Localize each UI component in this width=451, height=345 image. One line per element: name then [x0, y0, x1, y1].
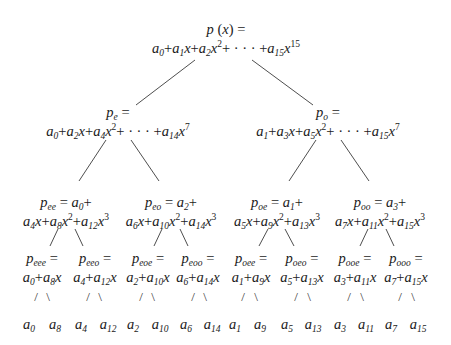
leaf-a8: a8 — [49, 316, 61, 333]
leaf-a5: a5 — [281, 316, 293, 333]
leaf-a14: a14 — [204, 316, 221, 333]
leaf-a2: a2 — [127, 316, 139, 333]
node-p-ooe-formula: a3+a11x — [334, 268, 377, 287]
leaf-edge: / — [347, 289, 351, 305]
edge-pee-peee — [50, 229, 58, 246]
node-p-oe-label: poe = a1+ — [234, 193, 320, 212]
leaf-edge: / — [139, 289, 143, 305]
edge-peo-peoe — [154, 229, 162, 246]
root-formula: a0+a1x+a2x2+ · · · +a15x15 — [152, 39, 300, 58]
leaf-a4: a4 — [75, 316, 87, 333]
node-p-eoe: peoe = a2+a10x — [126, 249, 169, 287]
node-p-eo-formula: a6x+a10x2+a14x3 — [126, 212, 217, 231]
node-p-eo: peo = a2+ a6x+a10x2+a14x3 — [126, 193, 217, 231]
edge-poo-pooe — [360, 229, 368, 246]
node-p-ee-label: pee = a0+ — [23, 193, 109, 212]
leaf-a6: a6 — [180, 316, 192, 333]
leaf-a3: a3 — [334, 316, 346, 333]
node-p-eeo-formula: a4+a12x — [73, 268, 116, 287]
leaf-a11: a11 — [358, 316, 374, 333]
leaf-edge: \ — [254, 289, 258, 305]
leaf-edge: / — [241, 289, 245, 305]
node-p-ooo-label: pooo = — [384, 249, 427, 268]
edge-root-pe — [136, 60, 195, 105]
node-p-oee-label: poee = — [232, 249, 271, 268]
root-node-p-x: p (x) = a0+a1x+a2x2+ · · · +a15x15 — [152, 20, 300, 58]
edge-root-po — [252, 60, 313, 105]
node-p-oeo-label: poeo = — [280, 249, 323, 268]
node-p-oe: poe = a1+ a5x+a9x2+a13x3 — [234, 193, 320, 231]
node-p-eoe-formula: a2+a10x — [126, 268, 169, 287]
node-p-ooe-label: pooe = — [334, 249, 377, 268]
node-p-eee-formula: a0+a8x — [23, 268, 62, 287]
leaf-edge: \ — [98, 289, 102, 305]
node-p-e: pe = a0+a2x+a4x2+ · · · +a14x7 — [46, 103, 189, 141]
node-p-oee-formula: a1+a9x — [232, 268, 271, 287]
node-p-ooo-formula: a7+a15x — [384, 268, 427, 287]
leaf-a15: a15 — [410, 316, 427, 333]
leaf-edge: \ — [307, 289, 311, 305]
leaf-a10: a10 — [152, 316, 169, 333]
node-p-o-label: po = — [256, 103, 399, 122]
node-p-eeo-label: peeo = — [73, 249, 116, 268]
node-p-eee: peee = a0+a8x — [23, 249, 62, 287]
leaf-edge: \ — [411, 289, 415, 305]
edge-pee-peeo — [75, 229, 83, 246]
node-p-oe-formula: a5x+a9x2+a13x3 — [234, 212, 320, 231]
root-label: p (x) = — [152, 20, 300, 39]
node-p-ee-formula: a4x+a8x2+a12x3 — [23, 212, 109, 231]
node-p-oeo: poeo = a5+a13x — [280, 249, 323, 287]
leaf-edge: \ — [203, 289, 207, 305]
node-p-e-formula: a0+a2x+a4x2+ · · · +a14x7 — [46, 122, 189, 141]
node-p-eo-label: peo = a2+ — [126, 193, 217, 212]
leaf-a0: a0 — [23, 316, 35, 333]
node-p-eoe-label: peoe = — [126, 249, 169, 268]
node-p-oeo-formula: a5+a13x — [280, 268, 323, 287]
leaf-a7: a7 — [385, 316, 397, 333]
edge-poe-poee — [259, 229, 268, 246]
node-p-o: po = a1+a3x+a5x2+ · · · +a15x7 — [256, 103, 399, 141]
node-p-eoo: peoo = a6+a14x — [176, 249, 219, 287]
leaf-edge: / — [398, 289, 402, 305]
leaf-edge: \ — [46, 289, 50, 305]
node-p-o-formula: a1+a3x+a5x2+ · · · +a15x7 — [256, 122, 399, 141]
leaf-edge: \ — [360, 289, 364, 305]
edge-poe-poeo — [285, 229, 294, 246]
edge-pe-peo — [131, 140, 159, 181]
node-p-eeo: peeo = a4+a12x — [73, 249, 116, 287]
node-p-eoo-label: peoo = — [176, 249, 219, 268]
node-p-ooe: pooe = a3+a11x — [334, 249, 377, 287]
leaf-a9: a9 — [254, 316, 266, 333]
edge-po-poo — [341, 140, 369, 181]
node-p-ooo: pooo = a7+a15x — [384, 249, 427, 287]
node-p-eee-label: peee = — [23, 249, 62, 268]
edge-po-poe — [289, 140, 316, 181]
edge-pe-pee — [79, 140, 106, 181]
leaf-edge: \ — [151, 289, 155, 305]
edge-peo-peoo — [180, 229, 188, 246]
node-p-e-label: pe = — [46, 103, 189, 122]
node-p-eoo-formula: a6+a14x — [176, 268, 219, 287]
leaf-edge: / — [86, 289, 90, 305]
edge-poo-pooo — [386, 229, 394, 246]
node-p-oee: poee = a1+a9x — [232, 249, 271, 287]
leaf-edge: / — [191, 289, 195, 305]
leaf-edge: / — [294, 289, 298, 305]
leaf-edge: / — [34, 289, 38, 305]
leaf-a1: a1 — [229, 316, 241, 333]
node-p-oo: poo = a3+ a7x+a11x2+a15x3 — [335, 193, 425, 231]
node-p-oo-label: poo = a3+ — [335, 193, 425, 212]
node-p-oo-formula: a7x+a11x2+a15x3 — [335, 212, 425, 231]
node-p-ee: pee = a0+ a4x+a8x2+a12x3 — [23, 193, 109, 231]
leaf-a12: a12 — [100, 316, 117, 333]
leaf-a13: a13 — [305, 316, 322, 333]
